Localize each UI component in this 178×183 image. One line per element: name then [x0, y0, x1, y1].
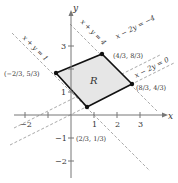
- x-axis-label: x: [168, 111, 173, 121]
- y-tick-label: 1: [61, 88, 66, 97]
- y-tick-label: −2: [55, 157, 67, 166]
- y-tick-label: −1: [55, 134, 67, 143]
- vertex-label: (2/3, 1/3): [76, 135, 107, 143]
- x-tick-label: 2: [115, 120, 120, 129]
- x-tick-label: −2: [20, 120, 32, 129]
- y-axis-label: y: [72, 3, 79, 13]
- vertex-label: (8/3, 4/3): [136, 84, 167, 92]
- x-tick-label: 3: [138, 120, 143, 129]
- y-tick-label: 3: [61, 42, 66, 51]
- region-diagram: x y −2 1 2 3 3 1 −1 −2 R x + y = 1 x + y…: [0, 0, 178, 183]
- region-label: R: [89, 75, 98, 86]
- line-label: x + y = 1: [21, 34, 50, 63]
- line-label: x − 2y = −4: [114, 14, 156, 41]
- vertex-label: (4/3, 8/3): [113, 52, 144, 60]
- x-tick-label: 1: [92, 120, 97, 129]
- vertex-label: (−2/3, 5/3): [4, 70, 40, 78]
- line-label: x + y = 4: [79, 18, 108, 47]
